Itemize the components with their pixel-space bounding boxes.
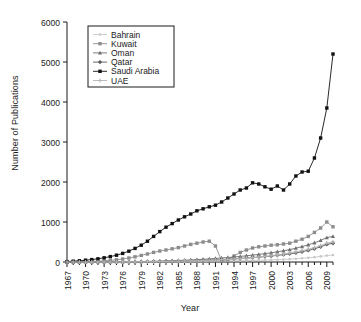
data-point bbox=[300, 238, 303, 241]
data-point bbox=[195, 209, 198, 212]
data-point bbox=[313, 231, 316, 234]
data-point bbox=[115, 254, 118, 257]
data-point bbox=[195, 242, 198, 245]
data-point bbox=[220, 200, 223, 203]
data-point bbox=[208, 205, 211, 208]
y-tick-label: 2000 bbox=[41, 178, 60, 188]
data-point bbox=[170, 222, 173, 225]
x-tick-label: 1982 bbox=[155, 271, 165, 290]
data-point bbox=[121, 252, 124, 255]
data-point bbox=[99, 33, 102, 36]
data-point bbox=[127, 250, 130, 253]
data-point bbox=[288, 258, 291, 261]
data-point bbox=[288, 251, 292, 255]
y-tick-label: 3000 bbox=[41, 138, 60, 148]
data-point bbox=[158, 249, 161, 252]
chart-canvas: 0100020003000400050006000196719701973197… bbox=[0, 0, 361, 322]
data-point bbox=[176, 259, 180, 263]
data-point bbox=[294, 240, 297, 243]
data-point bbox=[158, 230, 161, 233]
data-point bbox=[133, 247, 136, 250]
data-point bbox=[282, 258, 285, 261]
y-tick-label: 6000 bbox=[41, 18, 60, 28]
data-point bbox=[140, 244, 143, 247]
data-point bbox=[214, 204, 217, 207]
data-point bbox=[164, 226, 167, 229]
y-tick-label: 0 bbox=[55, 258, 60, 268]
data-point bbox=[288, 242, 291, 245]
data-point bbox=[139, 260, 143, 264]
legend-label: UAE bbox=[111, 76, 129, 86]
data-point bbox=[257, 259, 260, 262]
data-point bbox=[146, 240, 149, 243]
data-point bbox=[282, 188, 285, 191]
x-tick-label: 1997 bbox=[248, 271, 258, 290]
x-tick-label: 1973 bbox=[100, 271, 110, 290]
data-point bbox=[133, 260, 137, 264]
data-point bbox=[288, 182, 291, 185]
x-tick-label: 1979 bbox=[137, 271, 147, 290]
data-point bbox=[257, 245, 260, 248]
data-point bbox=[183, 244, 186, 247]
data-point bbox=[152, 260, 156, 264]
data-point bbox=[326, 254, 329, 257]
y-tick-label: 4000 bbox=[41, 98, 60, 108]
x-tick-label: 2006 bbox=[304, 271, 314, 290]
data-point bbox=[214, 244, 217, 247]
data-point bbox=[152, 235, 155, 238]
data-point bbox=[98, 42, 101, 45]
x-tick-label: 1976 bbox=[118, 271, 128, 290]
data-point bbox=[226, 196, 229, 199]
data-point bbox=[301, 257, 304, 260]
y-tick-label: 1000 bbox=[41, 218, 60, 228]
series-line bbox=[67, 222, 333, 262]
data-point bbox=[269, 244, 272, 247]
data-point bbox=[331, 225, 334, 228]
data-point bbox=[276, 243, 279, 246]
x-tick-label: 2009 bbox=[322, 271, 332, 290]
data-point bbox=[182, 259, 186, 263]
data-point bbox=[164, 259, 168, 263]
publications-by-country-chart: 0100020003000400050006000196719701973197… bbox=[0, 0, 361, 322]
data-point bbox=[276, 184, 279, 187]
data-point bbox=[245, 186, 248, 189]
data-point bbox=[251, 246, 254, 249]
x-tick-label: 1985 bbox=[174, 271, 184, 290]
data-point bbox=[164, 248, 167, 251]
data-point bbox=[307, 235, 310, 238]
data-point bbox=[300, 170, 303, 173]
data-point bbox=[313, 256, 316, 259]
data-point bbox=[307, 170, 310, 173]
data-point bbox=[331, 234, 335, 238]
data-point bbox=[170, 247, 173, 250]
data-point bbox=[245, 248, 248, 251]
data-point bbox=[319, 255, 322, 258]
data-point bbox=[270, 259, 273, 262]
data-point bbox=[208, 240, 211, 243]
data-point bbox=[325, 106, 328, 109]
data-point bbox=[276, 258, 279, 261]
data-point bbox=[133, 255, 136, 258]
x-axis-title: Year bbox=[150, 303, 230, 313]
data-point bbox=[239, 251, 242, 254]
data-point bbox=[146, 252, 149, 255]
data-point bbox=[145, 260, 149, 264]
y-axis-title: Number of Publications bbox=[10, 63, 20, 183]
data-point bbox=[294, 174, 297, 177]
data-point bbox=[201, 240, 204, 243]
legend: BahrainKuwaitOmanQatarSaudi ArabiaUAE bbox=[88, 26, 174, 87]
data-point bbox=[232, 192, 235, 195]
data-point bbox=[269, 188, 272, 191]
series-line bbox=[67, 236, 333, 262]
data-point bbox=[275, 253, 279, 257]
data-point bbox=[295, 258, 298, 261]
data-point bbox=[177, 218, 180, 221]
data-point bbox=[170, 259, 174, 263]
data-point bbox=[177, 246, 180, 249]
data-point bbox=[282, 242, 285, 245]
data-point bbox=[332, 254, 335, 257]
x-tick-label: 1967 bbox=[63, 271, 73, 290]
data-point bbox=[189, 212, 192, 215]
x-tick-label: 1970 bbox=[81, 271, 91, 290]
x-tick-label: 1994 bbox=[230, 271, 240, 290]
